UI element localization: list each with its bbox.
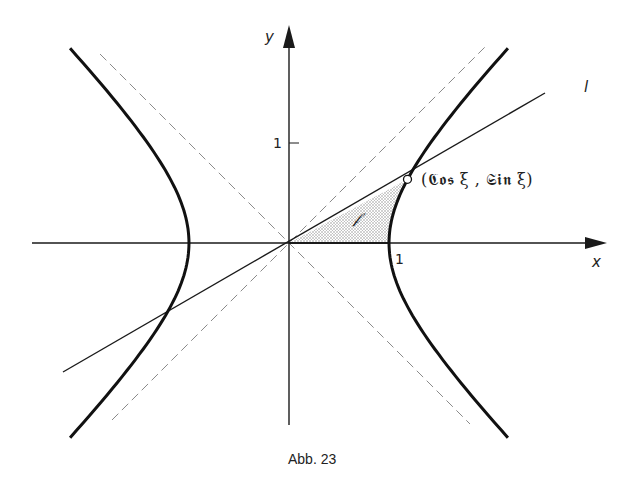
y-tick-label: 1	[273, 136, 282, 150]
x-axis-arrow-icon	[585, 237, 607, 249]
area-f-label: 𝒻	[353, 211, 360, 226]
line-l	[63, 93, 545, 372]
x-tick-label: 1	[395, 252, 404, 266]
point-coordinates-label: (𝕮𝖔𝖘 ξ , 𝕾𝖎𝖓 ξ)	[421, 172, 533, 188]
y-axis-label: y	[265, 30, 274, 45]
line-l-label: l	[584, 80, 588, 95]
intersection-point-marker	[404, 175, 412, 183]
asymptote-positive	[112, 47, 485, 420]
x-axis-label: x	[592, 255, 601, 270]
y-axis-arrow-icon	[283, 25, 295, 48]
figure-caption: Abb. 23	[288, 452, 336, 466]
asymptote-negative	[100, 54, 470, 424]
hyperbola-figure	[0, 0, 631, 491]
